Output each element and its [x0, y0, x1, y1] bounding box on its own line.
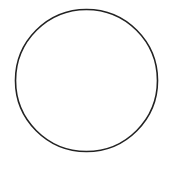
- diagram-canvas: [0, 0, 169, 183]
- diagram-svg: [0, 0, 169, 183]
- circle-shape: [16, 10, 158, 152]
